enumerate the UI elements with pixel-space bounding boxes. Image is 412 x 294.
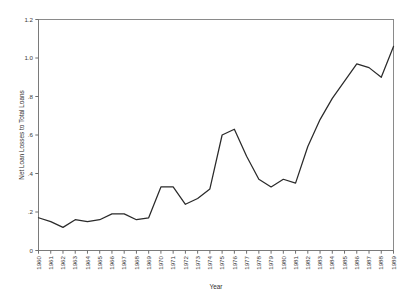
- x-tick-label: 1966: [108, 255, 115, 269]
- x-tick-label: 1976: [231, 255, 238, 269]
- x-tick-label: 1977: [243, 255, 250, 269]
- x-tick-label: 1975: [218, 255, 225, 269]
- y-tick-label: .6: [28, 131, 34, 138]
- chart-figure: 0.2.4.6.81.01.2 196019611962196319641965…: [0, 0, 412, 294]
- x-tick-label: 1979: [267, 255, 274, 269]
- x-tick-label: 1963: [71, 255, 78, 269]
- x-axis-title: Year: [210, 283, 224, 290]
- plot-frame: [38, 20, 394, 251]
- y-tick-label: .2: [28, 208, 34, 215]
- x-tick-label: 1967: [120, 255, 127, 269]
- x-tick-label: 1989: [390, 255, 397, 269]
- x-tick-label: 1965: [96, 255, 103, 269]
- x-tick-label: 1978: [255, 255, 262, 269]
- x-tick-label: 1972: [182, 255, 189, 269]
- y-tick-label: 1.2: [24, 16, 33, 23]
- y-axis-title: Net Loan Losses to Total Loans: [18, 90, 25, 179]
- series-net-loan-losses: [39, 46, 394, 227]
- x-tick-label: 1961: [47, 255, 54, 269]
- y-tick-label: 1.0: [24, 54, 33, 61]
- x-tick-label: 1960: [35, 255, 42, 269]
- x-tick-label: 1970: [157, 255, 164, 269]
- x-tick-label: 1971: [169, 255, 176, 269]
- x-tick-label: 1973: [194, 255, 201, 269]
- x-tick-label: 1988: [377, 255, 384, 269]
- x-tick-label: 1974: [206, 255, 213, 269]
- y-tick-label: .4: [28, 170, 34, 177]
- line-chart-canvas: 0.2.4.6.81.01.2 196019611962196319641965…: [0, 0, 412, 294]
- x-tick-label: 1969: [145, 255, 152, 269]
- y-axis: 0.2.4.6.81.01.2: [24, 16, 38, 254]
- x-tick-label: 1980: [280, 255, 287, 269]
- x-tick-label: 1968: [133, 255, 140, 269]
- x-tick-label: 1983: [316, 255, 323, 269]
- x-tick-label: 1987: [365, 255, 372, 269]
- x-tick-label: 1986: [353, 255, 360, 269]
- x-tick-label: 1964: [84, 255, 91, 269]
- x-axis: 1960196119621963196419651966196719681969…: [35, 251, 397, 270]
- x-tick-label: 1982: [304, 255, 311, 269]
- x-tick-label: 1985: [341, 255, 348, 269]
- x-tick-label: 1984: [328, 255, 335, 269]
- x-tick-label: 1962: [59, 255, 66, 269]
- y-tick-label: .8: [28, 93, 34, 100]
- x-tick-label: 1981: [292, 255, 299, 269]
- y-tick-label: 0: [30, 247, 34, 254]
